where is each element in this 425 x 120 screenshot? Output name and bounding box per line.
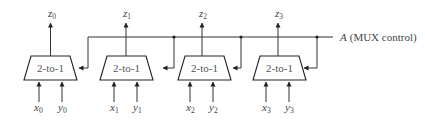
input-label-y: y0 [57, 101, 67, 115]
input-label-x: x2 [185, 101, 195, 115]
mux-label: 2-to-1 [191, 62, 218, 74]
junction-dot [315, 35, 318, 38]
output-label: z0 [47, 7, 56, 21]
output-label: z2 [198, 7, 207, 21]
mux-1: 2-to-1 z1 x1 y1 [100, 7, 153, 115]
input-label-x: x1 [109, 101, 119, 115]
input-label-x: x0 [33, 101, 43, 115]
mux-label: 2-to-1 [266, 62, 293, 74]
output-label: z1 [122, 7, 131, 21]
mux-0: 2-to-1 z0 x0 y0 [24, 7, 77, 115]
output-label: z3 [274, 7, 283, 21]
input-label-y: y1 [132, 101, 142, 115]
mux-label: 2-to-1 [37, 62, 64, 74]
mux-2: 2-to-1 z2 x2 y2 [178, 7, 231, 115]
control-label: A(MUX control) [339, 31, 417, 44]
mux-3: 2-to-1 z3 x3 y3 [253, 7, 306, 115]
input-label-x: x3 [261, 101, 271, 115]
mux-label: 2-to-1 [113, 62, 140, 74]
mux-diagram: A(MUX control) 2-to-1 z0 x0 y0 2-to-1 z1… [0, 0, 425, 120]
input-label-y: y3 [284, 101, 294, 115]
junction-dot [239, 35, 242, 38]
junction-dot [172, 35, 175, 38]
input-label-y: y2 [208, 101, 218, 115]
